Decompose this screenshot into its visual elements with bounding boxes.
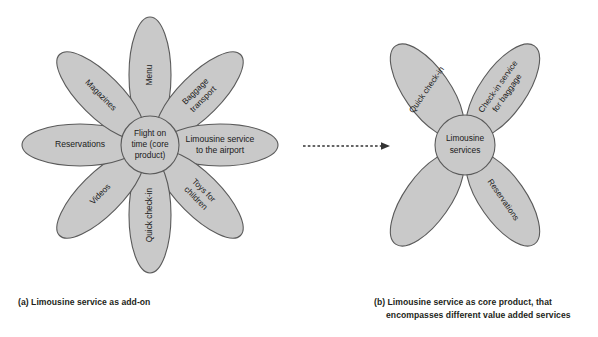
caption-a: (a) Limousine service as add-on [18, 296, 278, 309]
figure-canvas: Menu Baggage transport Limousine service… [0, 0, 598, 337]
flower-diagrams-svg: Menu Baggage transport Limousine service… [0, 0, 598, 337]
caption-b-line2: encompasses different value added servic… [386, 309, 589, 322]
petal-limousine-line1: Limousine service [186, 134, 255, 144]
core-a-line3: product) [135, 150, 166, 160]
core-b-line1: Limousine [446, 133, 485, 143]
petal-quick-check-in-label: Quick check-in [144, 187, 154, 242]
core-flight-on-time[interactable]: Flight on time (core product) [121, 116, 179, 174]
core-b-line2: services [450, 145, 481, 155]
core-a-line2: time (core [131, 139, 169, 149]
transition-arrow [303, 142, 390, 150]
petal-reservations-label: Reservations [55, 139, 105, 149]
core-limousine-services[interactable]: Limousine services [435, 115, 495, 175]
caption-b: (b) Limousine service as core product, t… [374, 296, 589, 321]
diagram-a-group: Menu Baggage transport Limousine service… [22, 17, 278, 273]
caption-b-line1: (b) Limousine service as core product, t… [374, 297, 552, 307]
petal-menu-label: Menu [144, 64, 154, 85]
diagram-b-group: Food & beverages Check-in service for ba… [377, 33, 553, 258]
petal-limousine-line2: to the airport [196, 145, 245, 155]
core-a-line1: Flight on [134, 128, 166, 138]
